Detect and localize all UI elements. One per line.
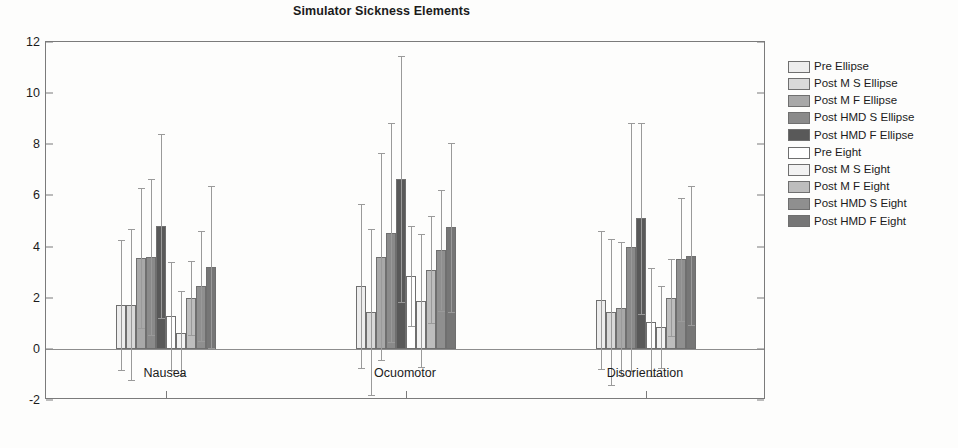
error-bar-cap-upper bbox=[178, 291, 185, 292]
error-bar bbox=[211, 186, 212, 347]
error-bar-cap-lower bbox=[148, 335, 155, 336]
legend-item[interactable]: Post HMD S Eight bbox=[788, 196, 954, 213]
error-bar bbox=[661, 286, 662, 368]
legend-item-label: Post M S Eight bbox=[814, 164, 890, 176]
legend-item[interactable]: Pre Ellipse bbox=[788, 58, 954, 75]
y-tick-mark bbox=[46, 297, 53, 298]
legend-item[interactable]: Post M S Eight bbox=[788, 161, 954, 178]
error-bar-cap-upper bbox=[638, 123, 645, 124]
error-bar-cap-lower bbox=[158, 318, 165, 319]
error-bar-cap-lower bbox=[638, 314, 645, 315]
y-axis-tick-label: 8 bbox=[33, 137, 40, 151]
error-bar-cap-lower bbox=[188, 335, 195, 336]
error-bar bbox=[431, 216, 432, 323]
error-bar-cap-upper bbox=[208, 186, 215, 187]
error-bar-cap-upper bbox=[118, 240, 125, 241]
legend-swatch bbox=[788, 78, 810, 90]
y-tick-mark bbox=[46, 144, 53, 145]
plot-area: -2024681012 bbox=[45, 41, 765, 399]
legend-item-label: Pre Eight bbox=[814, 147, 861, 159]
y-tick-mark-right bbox=[757, 400, 764, 401]
legend-item[interactable]: Post M F Ellipse bbox=[788, 92, 954, 109]
error-bar-cap-lower bbox=[448, 312, 455, 313]
legend-swatch bbox=[788, 61, 810, 73]
error-bar-cap-upper bbox=[618, 242, 625, 243]
y-axis-tick-label: 0 bbox=[33, 342, 40, 356]
error-bar-cap-upper bbox=[438, 190, 445, 191]
error-bar-cap-upper bbox=[198, 231, 205, 232]
legend-item[interactable]: Pre Eight bbox=[788, 144, 954, 161]
legend-item-label: Pre Ellipse bbox=[814, 61, 869, 73]
error-bar bbox=[621, 242, 622, 375]
error-bar-cap-lower bbox=[198, 341, 205, 342]
y-tick-mark bbox=[46, 42, 53, 43]
error-bar bbox=[651, 268, 652, 375]
y-tick-mark-right bbox=[757, 42, 764, 43]
error-bar bbox=[141, 188, 142, 329]
error-bar-cap-upper bbox=[448, 143, 455, 144]
legend-item[interactable]: Post M F Eight bbox=[788, 178, 954, 195]
y-tick-mark bbox=[46, 246, 53, 247]
error-bar bbox=[391, 123, 392, 343]
y-tick-mark bbox=[46, 400, 53, 401]
error-bar-cap-lower bbox=[438, 311, 445, 312]
legend-item[interactable]: Post M S Ellipse bbox=[788, 75, 954, 92]
y-tick-mark-right bbox=[757, 195, 764, 196]
error-bar-cap-upper bbox=[628, 123, 635, 124]
error-bar-cap-lower bbox=[388, 342, 395, 343]
y-tick-mark-right bbox=[757, 93, 764, 94]
error-bar-cap-lower bbox=[118, 370, 125, 371]
error-bar-cap-lower bbox=[358, 368, 365, 369]
legend-item-label: Post HMD F Ellipse bbox=[814, 130, 914, 142]
error-bar-cap-upper bbox=[668, 259, 675, 260]
error-bar-cap-lower bbox=[398, 302, 405, 303]
simulator-sickness-chart: Simulator Sickness Elements -2024681012 … bbox=[0, 0, 958, 448]
error-bar-cap-upper bbox=[138, 188, 145, 189]
error-bar-cap-lower bbox=[208, 348, 215, 349]
x-axis-category-label: Disorientation bbox=[607, 366, 683, 380]
x-tick-mark bbox=[406, 391, 407, 398]
legend-item[interactable]: Post HMD F Eight bbox=[788, 213, 954, 230]
error-bar-cap-upper bbox=[418, 234, 425, 235]
error-bar-cap-upper bbox=[408, 226, 415, 227]
error-bar-cap-lower bbox=[378, 360, 385, 361]
legend-item-label: Post HMD S Eight bbox=[814, 198, 907, 210]
error-bar bbox=[401, 56, 402, 301]
error-bar bbox=[121, 240, 122, 370]
error-bar bbox=[131, 229, 132, 380]
legend-item[interactable]: Post HMD F Ellipse bbox=[788, 127, 954, 144]
chart-legend: Pre EllipsePost M S EllipsePost M F Elli… bbox=[788, 58, 954, 230]
page-title: Simulator Sickness Elements bbox=[0, 4, 763, 18]
error-bar bbox=[601, 231, 602, 369]
legend-swatch bbox=[788, 181, 810, 193]
error-bar bbox=[691, 186, 692, 324]
legend-item-label: Post M S Ellipse bbox=[814, 78, 898, 90]
error-bar-cap-upper bbox=[678, 198, 685, 199]
error-bar-cap-lower bbox=[368, 395, 375, 396]
error-bar-cap-upper bbox=[648, 268, 655, 269]
error-bar-cap-upper bbox=[358, 204, 365, 205]
error-bar-cap-upper bbox=[158, 134, 165, 135]
error-bar-cap-upper bbox=[388, 123, 395, 124]
error-bar-cap-lower bbox=[688, 325, 695, 326]
error-bar bbox=[411, 226, 412, 326]
error-bar bbox=[361, 204, 362, 368]
legend-item[interactable]: Post HMD S Ellipse bbox=[788, 110, 954, 127]
y-tick-mark-right bbox=[757, 297, 764, 298]
error-bar bbox=[671, 259, 672, 336]
error-bar bbox=[641, 123, 642, 315]
y-tick-mark-right bbox=[757, 144, 764, 145]
error-bar bbox=[631, 123, 632, 371]
y-axis-tick-label: 2 bbox=[33, 291, 40, 305]
error-bar-cap-upper bbox=[168, 262, 175, 263]
error-bar-cap-upper bbox=[148, 179, 155, 180]
error-bar-cap-upper bbox=[378, 153, 385, 154]
error-bar-cap-lower bbox=[608, 385, 615, 386]
error-bar-cap-upper bbox=[428, 216, 435, 217]
x-axis-category-label: Ocuomotor bbox=[374, 366, 436, 380]
legend-swatch bbox=[788, 95, 810, 107]
x-axis-category-label: Nausea bbox=[143, 366, 186, 380]
error-bar-cap-upper bbox=[598, 231, 605, 232]
error-bar-cap-lower bbox=[128, 380, 135, 381]
y-tick-mark-right bbox=[757, 246, 764, 247]
